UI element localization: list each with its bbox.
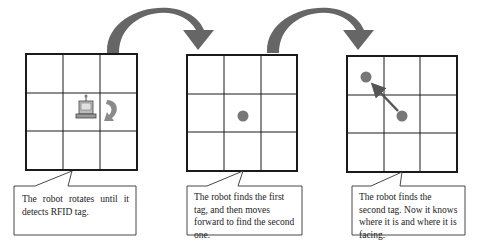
rfid-tag-dot-icon <box>397 111 408 122</box>
rotate-arrow-icon <box>104 100 117 121</box>
caption-step-1: The robot rotates until it detects RFID … <box>22 193 129 218</box>
rfid-tag-dot-icon <box>361 72 372 83</box>
curved-arrow-icon <box>267 8 374 53</box>
rfid-tag-dot-icon <box>238 111 249 122</box>
robot-icon <box>76 95 96 119</box>
diagram-canvas: The robot rotates until it detects RFID … <box>0 0 479 249</box>
move-arrow-icon <box>376 88 398 111</box>
caption-step-2: The robot finds the first tag, and then … <box>194 191 296 241</box>
curved-arrow-icon <box>107 8 214 53</box>
caption-step-3: The robot finds the second tag. Now it k… <box>359 191 459 241</box>
